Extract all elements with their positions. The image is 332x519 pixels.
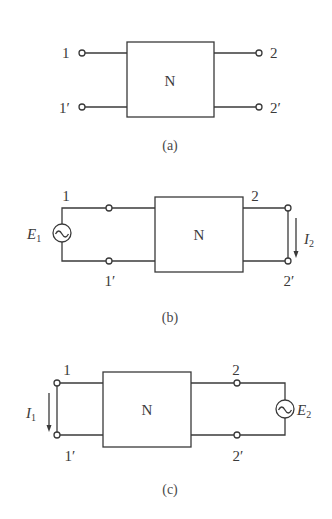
label-2: 2 (232, 362, 240, 378)
terminal-1p (54, 432, 60, 438)
terminal-2 (256, 50, 262, 56)
terminal-1 (79, 50, 85, 56)
network-label: N (142, 402, 153, 418)
figure-c: N 1 1′ 2 2′ I1 E2 (c) (25, 362, 311, 498)
caption-b: (b) (162, 310, 179, 326)
terminal-1 (106, 205, 112, 211)
wire-source-top (62, 208, 106, 224)
terminal-2 (234, 380, 240, 386)
current-subscript: 1 (31, 412, 36, 423)
current-subscript: 2 (309, 238, 314, 249)
terminal-1p (106, 258, 112, 264)
label-2p: 2′ (233, 448, 244, 464)
current-label-i2: I2 (303, 231, 314, 249)
label-1p: 1′ (65, 448, 76, 464)
label-1p: 1′ (59, 100, 70, 116)
network-label: N (165, 73, 176, 89)
terminal-2p (285, 258, 291, 264)
arrowhead-icon (47, 425, 52, 432)
label-1: 1 (62, 45, 70, 61)
network-label: N (194, 227, 205, 243)
current-label-i1: I1 (25, 405, 36, 423)
terminal-2 (285, 205, 291, 211)
figure-a: N 1 1′ 2 2′ (a) (59, 42, 281, 154)
wire-source-bottom (240, 418, 285, 435)
wire-source-top (240, 383, 285, 400)
label-1: 1 (62, 188, 70, 204)
label-1: 1 (63, 362, 71, 378)
arrowhead-icon (294, 251, 299, 258)
wire-source-bottom (62, 242, 106, 261)
two-port-network-diagrams: N 1 1′ 2 2′ (a) N (0, 0, 332, 519)
label-2p: 2′ (270, 100, 281, 116)
label-2: 2 (251, 188, 259, 204)
caption-a: (a) (162, 138, 178, 154)
terminal-2p (234, 432, 240, 438)
label-2p: 2′ (284, 273, 295, 289)
source-subscript: 1 (36, 233, 41, 244)
label-2: 2 (270, 45, 278, 61)
source-label-e2: E2 (296, 402, 311, 420)
label-1p: 1′ (105, 273, 116, 289)
source-label-e1: E1 (26, 226, 41, 244)
figure-b: N 1 1′ 2 2′ E1 I2 (b) (26, 188, 314, 326)
terminal-1p (79, 104, 85, 110)
source-subscript: 2 (306, 409, 311, 420)
source-symbol: E (26, 226, 36, 242)
terminal-2p (256, 104, 262, 110)
source-symbol: E (296, 402, 306, 418)
terminal-1 (54, 380, 60, 386)
caption-c: (c) (162, 482, 178, 498)
